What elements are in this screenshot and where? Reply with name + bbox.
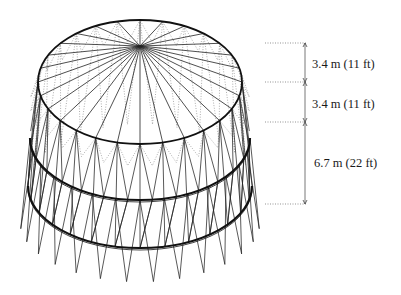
dimension-label-lower: 6.7 m (22 ft)	[314, 157, 377, 170]
dimension-label-middle: 3.4 m (11 ft)	[312, 98, 375, 111]
dimension-lines	[265, 43, 307, 204]
dimension-label-upper: 3.4 m (11 ft)	[312, 58, 375, 71]
tower-wireframe-diagram	[0, 0, 401, 295]
